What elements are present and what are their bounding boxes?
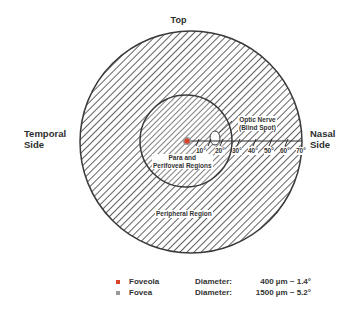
legend-name: Foveola	[129, 277, 195, 286]
blind-spot	[210, 131, 220, 145]
legend-diameter-label: Diameter:	[195, 288, 251, 297]
tick-30: 30°	[232, 147, 242, 155]
legend-value: 400 µm ~ 1.4°	[251, 277, 311, 286]
tick-60: 60°	[280, 147, 290, 155]
legend-row-foveola: Foveola Diameter: 400 µm ~ 1.4°	[116, 276, 311, 287]
label-nasal-line1: Nasal	[310, 128, 335, 139]
label-para-perifoveal: Para and Perifoveal Regions	[152, 154, 213, 169]
label-optic-nerve: Optic Nerve (Blind Spot)	[238, 116, 277, 131]
legend-diameter-label: Diameter:	[195, 277, 251, 286]
tick-70: 70°	[296, 147, 306, 155]
fovea-swatch-icon	[116, 291, 120, 295]
label-nasal-line2: Side	[310, 139, 335, 150]
label-top: Top	[0, 15, 357, 25]
legend-row-fovea: Fovea Diameter: 1500 µm ~ 5.2°	[116, 287, 311, 298]
para-line1: Para and	[153, 154, 212, 162]
tick-50: 50°	[264, 147, 274, 155]
label-temporal-side: Temporal Side	[24, 128, 66, 150]
foveola-swatch-icon	[116, 280, 120, 284]
label-nasal-side: Nasal Side	[310, 128, 335, 150]
optic-nerve-line2: (Blind Spot)	[239, 124, 276, 132]
foveola-dot	[184, 138, 189, 143]
legend: Foveola Diameter: 400 µm ~ 1.4° Fovea Di…	[116, 276, 311, 298]
tick-40: 40°	[248, 147, 258, 155]
optic-nerve-line1: Optic Nerve	[239, 116, 276, 124]
legend-name: Fovea	[129, 288, 195, 297]
para-line2: Perifoveal Regions	[153, 162, 212, 170]
tick-20: 20°	[215, 147, 225, 155]
label-peripheral-region: Peripheral Region	[155, 210, 213, 218]
legend-value: 1500 µm ~ 5.2°	[251, 288, 311, 297]
label-temporal-line1: Temporal	[24, 128, 66, 139]
tick-10: 10°	[196, 147, 206, 155]
label-temporal-line2: Side	[24, 139, 66, 150]
